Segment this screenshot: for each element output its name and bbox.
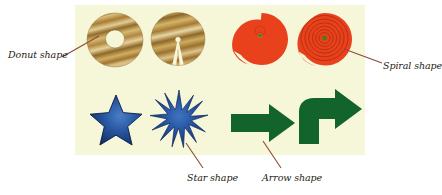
callout-label-spiral: Spiral shape (383, 61, 442, 71)
shape-arrow-bent (299, 98, 362, 144)
shape-donut (86, 12, 144, 68)
shape-arrow-straight (231, 104, 295, 142)
shape-spiral-coiled (297, 12, 355, 69)
shape-star-burst (150, 90, 208, 148)
shape-cut-donut (150, 12, 206, 68)
callout-label-arrow: Arrow shape (262, 173, 322, 183)
callout-label-star: Star shape (187, 173, 238, 183)
shape-star-five-point (88, 94, 144, 148)
shape-spiral-nautilus (232, 11, 290, 69)
callout-label-donut: Donut shape (8, 50, 68, 60)
